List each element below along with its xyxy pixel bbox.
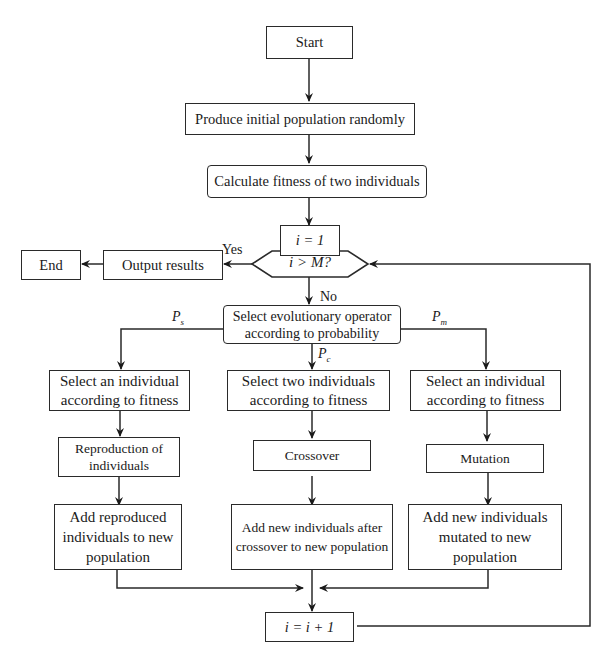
no-label: No xyxy=(320,289,337,305)
branch-mutation-operation: Mutation xyxy=(426,444,544,473)
branch-mutation-select: Select an individual according to fitnes… xyxy=(410,370,561,411)
prob-label-pc: Pc xyxy=(318,346,331,364)
yes-label: Yes xyxy=(222,242,242,258)
calc-fitness-node: Calculate fitness of two individuals xyxy=(207,165,427,198)
output-results-node: Output results xyxy=(103,250,223,280)
select-operator-node: Select evolutionary operator according t… xyxy=(223,305,401,344)
init-counter-node: i = 1 xyxy=(280,225,340,256)
branch-reproduction-select: Select an individual according to fitnes… xyxy=(49,370,190,411)
decision-node: i > M? xyxy=(272,254,348,274)
branch-crossover-select: Select two individuals according to fitn… xyxy=(227,370,390,411)
branch-reproduction-operation: Reproduction of individuals xyxy=(58,437,180,477)
start-node: Start xyxy=(266,26,353,59)
prob-label-ps: Ps xyxy=(172,309,184,327)
branch-mutation-add: Add new individuals mutated to new popul… xyxy=(408,504,562,570)
prob-label-pm: Pm xyxy=(432,309,447,327)
end-node: End xyxy=(21,250,81,280)
branch-crossover-operation: Crossover xyxy=(253,440,371,471)
init-population-node: Produce initial population randomly xyxy=(185,103,415,135)
branch-crossover-add: Add new individuals after crossover to n… xyxy=(231,504,393,570)
branch-reproduction-add: Add reproduced individuals to new popula… xyxy=(54,504,182,570)
increment-node: i = i + 1 xyxy=(265,612,354,642)
